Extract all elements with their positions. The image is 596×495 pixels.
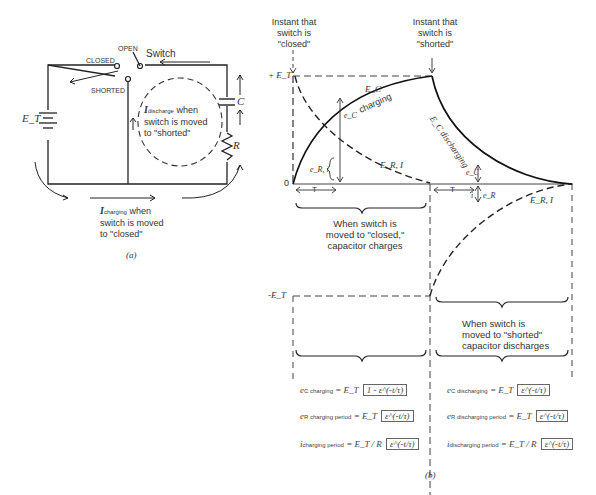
er-i-charging-small: e_R, i: [310, 164, 329, 175]
resistor-icon: [220, 132, 234, 162]
resistor-label: R: [233, 140, 240, 151]
i-symbol-discharging: i: [471, 190, 473, 201]
ec-symbol-charging: e_C: [344, 110, 357, 121]
ec-discharging-curve: [432, 76, 572, 184]
switch-label: Switch: [146, 48, 175, 59]
switch-open-label: OPEN: [118, 43, 138, 54]
eq-i-discharging: idischarging period = E_T / R ε^(-t/τ): [447, 438, 573, 450]
caption-b: (b): [425, 470, 436, 481]
charging-description: When switch ismoved to "closed,"capacito…: [310, 218, 420, 251]
tau-label-charging: T: [312, 184, 317, 195]
eq-er-charging: eR charging period = E_T ε^(-t/τ): [300, 410, 414, 422]
switch: [115, 52, 143, 82]
er-i-discharging-label: E_R, I: [530, 195, 553, 206]
discharge-note: Idischarge when switch is moved to "shor…: [144, 104, 208, 139]
instant-closed-label: Instant thatswitch is"closed": [264, 17, 324, 50]
eq-er-discharging: eR discharging period = E_T ε^(-t/τ): [447, 410, 568, 422]
ec-symbol-discharging: e_C: [466, 167, 479, 178]
current-arrows: [35, 59, 243, 201]
eq-i-charging: icharging period = E_T / R ε^(-t/τ): [300, 438, 419, 450]
minus-et-label: -E_T: [268, 290, 286, 301]
capacitor-icon: [217, 97, 237, 106]
eq-ec-discharging: eC discharging = E_T ε^(-t/τ): [447, 384, 550, 396]
closed-terminal-label: CLOSED: [86, 55, 115, 66]
source-label: E_T: [22, 113, 40, 124]
discharging-description: When switch ismoved to "shorted"capacito…: [462, 318, 549, 351]
er-symbol-discharging: e_R: [483, 190, 495, 201]
eq-ec-charging: eC charging = E_T 1 - ε^(-t/τ): [300, 384, 407, 396]
tau-label-discharging: T: [450, 184, 455, 195]
ec-charging-label: E_C: [365, 84, 381, 95]
capacitor-label: C: [237, 96, 244, 107]
charging-note: Icharging when switch is moved to "close…: [100, 205, 164, 240]
shorted-terminal-label: SHORTED: [91, 85, 125, 96]
er-i-charging-label: E_R, I: [380, 160, 403, 171]
origin-label: 0: [284, 178, 289, 189]
caption-a: (a): [126, 250, 137, 261]
battery-icon: [38, 110, 58, 140]
instant-shorted-label: Instant thatswitch is"shorted": [405, 17, 465, 50]
plus-et-label: + E_T: [268, 70, 291, 81]
